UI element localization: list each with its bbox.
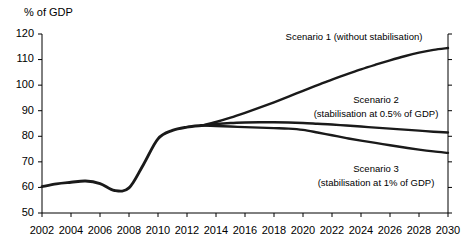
x-tick-label: 2004	[59, 224, 83, 236]
y-tick-label: 120	[16, 27, 34, 39]
x-tick-label: 2008	[117, 224, 141, 236]
scenario-2-label-line1: Scenario 2	[353, 94, 398, 105]
y-tick-label: 100	[16, 78, 34, 90]
x-tick-label: 2002	[30, 224, 54, 236]
y-tick-label: 50	[22, 206, 34, 218]
x-tick-label: 2006	[88, 224, 112, 236]
scenario-2-label-line2: (stabilisation at 0.5% of GDP)	[314, 108, 439, 119]
series-line-historical	[42, 126, 202, 192]
y-tick-label: 90	[22, 104, 34, 116]
x-tick-label: 2026	[378, 224, 402, 236]
y-tick-label: 60	[22, 180, 34, 192]
x-tick-label: 2028	[407, 224, 431, 236]
x-tick-label: 2018	[262, 224, 286, 236]
x-tick-label: 2010	[146, 224, 170, 236]
chart-container: % of GDP 1201101009080706050 20022004200…	[0, 0, 469, 247]
scenario-3-label-line1: Scenario 3	[353, 163, 398, 174]
y-tick-label: 70	[22, 155, 34, 167]
x-tick-label: 2020	[291, 224, 315, 236]
y-tick-label: 80	[22, 129, 34, 141]
x-tick-label: 2024	[349, 224, 373, 236]
chart-svg: 1201101009080706050 20022004200620082010…	[0, 0, 469, 247]
y-tick-label: 110	[16, 52, 34, 64]
x-tick-label: 2012	[175, 224, 199, 236]
scenario-1-label: Scenario 1 (without stabilisation)	[286, 31, 423, 42]
x-tick-label: 2030	[436, 224, 460, 236]
x-tick-label: 2016	[233, 224, 257, 236]
scenario-3-label-line2: (stabilisation at 1% of GDP)	[318, 177, 435, 188]
x-tick-label: 2022	[320, 224, 344, 236]
x-axis-tick-group: 2002200420062008201020122014201620182020…	[30, 213, 460, 236]
x-tick-label: 2014	[204, 224, 228, 236]
